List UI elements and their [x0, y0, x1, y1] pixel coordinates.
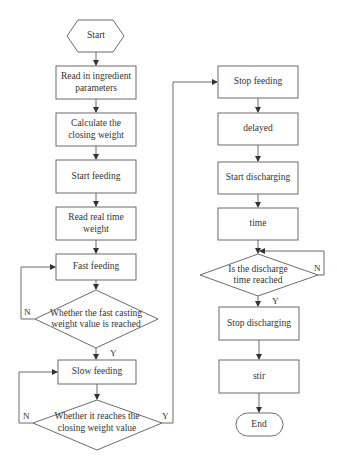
time-box: time [218, 208, 298, 240]
start-discharging-box: Start discharging [218, 162, 298, 194]
start-node: Start [67, 20, 124, 52]
decision-closing-line1: Whether it reaches the [54, 411, 139, 421]
read-ingredient-parameters-box: Read in ingredient parameters [56, 66, 136, 99]
slow-feeding-box: Slow feeding [58, 360, 136, 384]
start-label: Start [87, 30, 105, 40]
decision-discharge-no-label: N [314, 263, 321, 273]
decision-closing-no-label: N [23, 411, 30, 421]
decision-fast-line2: weight value is reached [51, 319, 141, 329]
decision-closing-weight: Whether it reaches the closing weight va… [33, 400, 162, 450]
read-params-line2: parameters [75, 83, 117, 93]
start-discharging-label: Start discharging [226, 172, 291, 182]
flowchart: Start Read in ingredient parameters Calc… [0, 0, 337, 460]
decision-closing-yes-label: Y [162, 411, 169, 421]
end-label: End [251, 419, 267, 429]
delayed-box: delayed [218, 113, 298, 145]
calc-line2: closing weight [68, 130, 124, 140]
decision-discharge-line1: Is the discharge [228, 264, 287, 274]
read-weight-line1: Read real time [68, 212, 123, 222]
fast-feeding-label: Fast feeding [73, 261, 120, 271]
read-weight-line2: weight [83, 224, 109, 234]
connector-yes-to-stop-feeding [162, 82, 217, 423]
end-node: End [236, 413, 283, 436]
decision-discharge-line2: time reached [234, 275, 283, 285]
stop-discharging-label: Stop discharging [227, 318, 291, 328]
delayed-label: delayed [243, 123, 273, 133]
stop-feeding-box: Stop feeding [218, 66, 298, 98]
start-feeding-box: Start feeding [56, 160, 136, 193]
read-params-line1: Read in ingredient [61, 71, 132, 81]
decision-fast-line1: Whether the fast casting [50, 308, 142, 318]
time-label: time [250, 218, 267, 228]
calc-line1: Calculate the [71, 118, 121, 128]
read-real-time-weight-box: Read real time weight [56, 207, 136, 240]
stir-label: stir [253, 371, 266, 381]
stir-box: stir [219, 360, 299, 393]
calculate-closing-weight-box: Calculate the closing weight [56, 113, 136, 146]
decision-fast-yes-label: Y [110, 348, 117, 358]
decision-fast-no-label: N [24, 307, 31, 317]
decision-discharge-yes-label: Y [272, 296, 279, 306]
decision-discharge-time: Is the discharge time reached [200, 254, 318, 296]
slow-feeding-label: Slow feeding [72, 366, 123, 376]
start-feeding-label: Start feeding [72, 171, 121, 181]
stop-discharging-box: Stop discharging [219, 307, 299, 340]
fast-feeding-box: Fast feeding [56, 254, 136, 280]
stop-feeding-label: Stop feeding [234, 76, 283, 86]
decision-fast-casting-weight: Whether the fast casting weight value is… [35, 290, 158, 348]
decision-closing-line2: closing weight value [58, 423, 137, 433]
